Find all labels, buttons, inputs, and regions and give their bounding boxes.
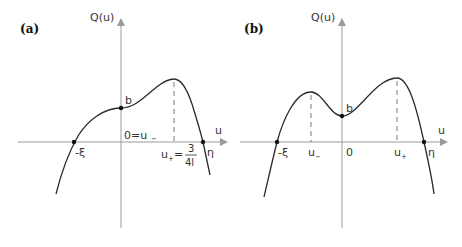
panel-a-left-root-label: -ξ xyxy=(75,146,85,159)
svg-text:3: 3 xyxy=(188,143,194,154)
panel-a-x-axis-label: u xyxy=(215,124,222,137)
panel-b-left-root-label: -ξ xyxy=(278,146,288,159)
panel-a-u-plus-label: u + = 3 4l xyxy=(161,143,197,168)
panel-a-root-right xyxy=(201,140,205,144)
svg-text:=: = xyxy=(174,148,183,161)
svg-text:u: u xyxy=(394,146,401,159)
panel-a-y-axis-label: Q(u) xyxy=(90,11,114,24)
panel-b-root-left xyxy=(275,140,279,144)
svg-text:−: − xyxy=(151,135,157,143)
panel-b-y-axis-label: Q(u) xyxy=(311,11,335,24)
svg-text:u: u xyxy=(161,148,168,161)
panel-a-label: (a) xyxy=(20,22,39,36)
svg-text:+: + xyxy=(401,153,407,161)
svg-text:−: − xyxy=(315,153,321,161)
panel-b-u-plus-label: u + xyxy=(394,146,407,161)
svg-text:u: u xyxy=(308,146,315,159)
panel-b-right-root-label: η xyxy=(428,146,435,159)
panel-b-label: (b) xyxy=(244,22,264,36)
panel-b-curve xyxy=(264,78,434,197)
panel-a-right-root-label: η xyxy=(207,146,214,159)
panel-b-u-minus-label: u − xyxy=(308,146,321,161)
figure-canvas: (a) Q(u) u b -ξ η 0=u − u + = 3 4l xyxy=(0,0,462,247)
panel-b-origin-label: 0 xyxy=(346,146,353,159)
panel-b: (b) Q(u) u b -ξ η 0 u − u + xyxy=(240,11,446,228)
panel-b-x-axis-label: u xyxy=(438,124,445,137)
panel-a-origin-label: 0=u − xyxy=(124,129,157,143)
svg-text:4l: 4l xyxy=(185,157,194,168)
panel-a: (a) Q(u) u b -ξ η 0=u − u + = 3 4l xyxy=(18,11,226,228)
panel-b-point-b xyxy=(340,114,344,118)
panel-a-point-b xyxy=(119,106,123,110)
panel-b-b-label: b xyxy=(346,102,353,115)
panel-a-root-left xyxy=(72,140,76,144)
panel-b-root-right xyxy=(422,140,426,144)
svg-text:0=u: 0=u xyxy=(124,129,147,142)
panel-a-b-label: b xyxy=(125,94,132,107)
